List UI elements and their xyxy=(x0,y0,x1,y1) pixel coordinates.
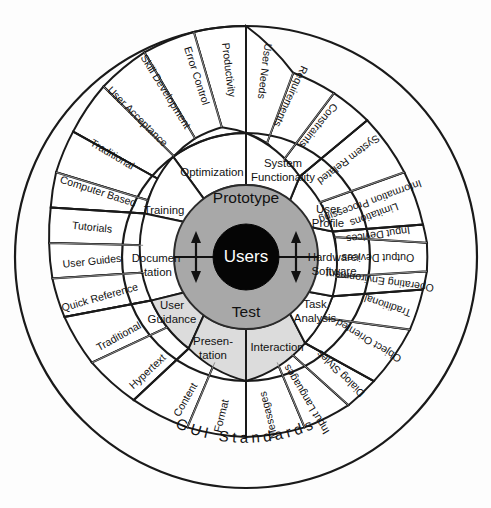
core-test-label: Test xyxy=(232,303,261,320)
middle-label-task-analysis-line2: Analysis xyxy=(294,312,337,324)
middle-label-system-functionality-line1: System xyxy=(264,157,302,169)
middle-label-optimization: Optimization xyxy=(180,166,243,178)
center-users-label: Users xyxy=(224,247,268,266)
middle-label-system-functionality-line2: Functionality xyxy=(251,171,315,183)
middle-label-presentation-line1: Presen- xyxy=(193,335,233,347)
diagram-canvas: GUI Standards Users Prototype Test Optim… xyxy=(0,0,491,508)
middle-label-interaction: Interaction xyxy=(250,341,303,353)
user-centred-design-wheel: GUI Standards Users Prototype Test Optim… xyxy=(0,0,491,508)
outer-label-output-devices: Output Devices xyxy=(342,252,414,264)
middle-label-user-guidance-line1: User xyxy=(160,299,184,311)
middle-label-training: Training xyxy=(144,204,185,216)
middle-label-presentation-line2: tation xyxy=(199,349,227,361)
middle-label-task-analysis-line1: Task xyxy=(303,298,327,310)
middle-label-user-guidance-line2: Guidance xyxy=(148,313,197,325)
middle-label-documentation-line2: -tation xyxy=(140,266,172,278)
middle-label-documentation-line1: Documen xyxy=(132,252,181,264)
core-prototype-label: Prototype xyxy=(213,189,279,206)
